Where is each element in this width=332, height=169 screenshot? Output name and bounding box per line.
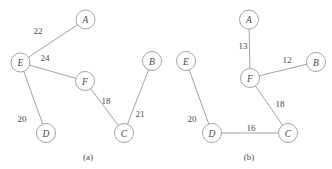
graph-node-label: F [246,74,253,84]
edge-weight-label: 20 [188,114,198,124]
graph-svg-canvas: 2224201821AEFBCD(a) 1312182016AEFBCD(b) [0,0,332,169]
edge-weight-label: 12 [283,55,292,65]
graph-node-label: B [313,58,319,68]
graph-node-label: C [285,129,292,139]
graph-node-label: B [149,57,155,67]
graph-node-label: D [42,129,50,139]
edge-e-f [30,65,76,78]
graph-node-label: D [208,129,216,139]
graph-node-label: C [121,129,128,139]
edge-a-f [249,29,250,69]
panel-a-group: 2224201821AEFBCD(a) [11,10,162,162]
graph-node-label: E [17,58,24,68]
panel-b-group: 1312182016AEFBCD(b) [177,10,326,162]
edge-weight-label: 13 [239,41,249,51]
edge-weight-label: 16 [247,123,257,133]
graph-node-label: A [245,15,252,25]
edge-f-b [259,64,307,76]
panel-caption: (a) [83,152,93,162]
edge-weight-label: 18 [276,99,286,109]
edge-e-d [24,71,43,124]
edge-weight-label: 18 [102,96,112,106]
edge-f-c [91,89,119,126]
graph-node-label: A [82,15,89,25]
edge-weight-label: 22 [34,26,43,36]
graph-figure: 2224201821AEFBCD(a) 1312182016AEFBCD(b) [0,0,332,169]
graph-node-label: F [81,77,88,87]
graph-node-label: E [182,57,189,67]
edge-weight-label: 21 [136,109,145,119]
edge-weight-label: 20 [18,114,28,124]
panel-caption: (b) [244,152,255,162]
edge-weight-label: 24 [41,53,51,63]
